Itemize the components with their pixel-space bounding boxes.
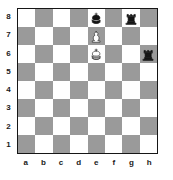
rank-label-6: 6 xyxy=(2,45,15,63)
board-square-a4[interactable] xyxy=(18,81,35,99)
board-square-f2[interactable] xyxy=(105,117,122,135)
board-square-f3[interactable] xyxy=(105,99,122,117)
board-square-g2[interactable] xyxy=(122,117,139,135)
board-square-a3[interactable] xyxy=(18,99,35,117)
file-label-e: e xyxy=(88,156,106,170)
board-square-h2[interactable] xyxy=(140,117,157,135)
board-square-b3[interactable] xyxy=(35,99,52,117)
board-square-f7[interactable] xyxy=(105,27,122,45)
board-square-g3[interactable] xyxy=(122,99,139,117)
board-square-a5[interactable] xyxy=(18,63,35,81)
black-rook-icon[interactable] xyxy=(140,45,157,63)
board-square-g1[interactable] xyxy=(122,135,139,153)
board-square-e6[interactable] xyxy=(88,45,105,63)
board-square-b6[interactable] xyxy=(35,45,52,63)
black-rook-icon[interactable] xyxy=(122,9,139,27)
rank-label-1: 1 xyxy=(2,136,15,154)
board-square-h5[interactable] xyxy=(140,63,157,81)
board-square-c8[interactable] xyxy=(53,9,70,27)
chess-board-grid xyxy=(18,9,157,153)
board-square-b2[interactable] xyxy=(35,117,52,135)
board-square-e4[interactable] xyxy=(88,81,105,99)
board-square-h3[interactable] xyxy=(140,99,157,117)
board-square-b5[interactable] xyxy=(35,63,52,81)
board-square-g6[interactable] xyxy=(122,45,139,63)
board-square-a2[interactable] xyxy=(18,117,35,135)
file-label-h: h xyxy=(140,156,158,170)
board-square-a8[interactable] xyxy=(18,9,35,27)
board-square-h7[interactable] xyxy=(140,27,157,45)
board-square-e3[interactable] xyxy=(88,99,105,117)
board-square-h8[interactable] xyxy=(140,9,157,27)
board-square-e7[interactable] xyxy=(88,27,105,45)
board-square-f4[interactable] xyxy=(105,81,122,99)
file-label-b: b xyxy=(35,156,53,170)
white-pawn-icon[interactable] xyxy=(88,27,105,45)
board-square-d8[interactable] xyxy=(70,9,87,27)
board-square-d1[interactable] xyxy=(70,135,87,153)
board-square-a7[interactable] xyxy=(18,27,35,45)
board-square-e5[interactable] xyxy=(88,63,105,81)
board-square-d3[interactable] xyxy=(70,99,87,117)
file-label-g: g xyxy=(123,156,141,170)
board-square-c1[interactable] xyxy=(53,135,70,153)
board-square-g7[interactable] xyxy=(122,27,139,45)
board-square-f1[interactable] xyxy=(105,135,122,153)
chess-diagram: 8 7 6 5 4 3 2 1 a b c d e f g h xyxy=(0,0,173,180)
board-square-h1[interactable] xyxy=(140,135,157,153)
board-square-d5[interactable] xyxy=(70,63,87,81)
board-square-d2[interactable] xyxy=(70,117,87,135)
chess-board xyxy=(17,8,158,154)
board-square-a1[interactable] xyxy=(18,135,35,153)
rank-label-5: 5 xyxy=(2,63,15,81)
black-king-icon[interactable] xyxy=(88,9,105,27)
board-square-d6[interactable] xyxy=(70,45,87,63)
board-square-f6[interactable] xyxy=(105,45,122,63)
board-square-c4[interactable] xyxy=(53,81,70,99)
file-label-f: f xyxy=(105,156,123,170)
board-square-c3[interactable] xyxy=(53,99,70,117)
board-square-h4[interactable] xyxy=(140,81,157,99)
board-square-d4[interactable] xyxy=(70,81,87,99)
rank-label-7: 7 xyxy=(2,26,15,44)
board-square-g8[interactable] xyxy=(122,9,139,27)
rank-label-4: 4 xyxy=(2,81,15,99)
white-king-icon[interactable] xyxy=(88,45,105,63)
board-square-h6[interactable] xyxy=(140,45,157,63)
board-square-b8[interactable] xyxy=(35,9,52,27)
board-square-c6[interactable] xyxy=(53,45,70,63)
board-square-c7[interactable] xyxy=(53,27,70,45)
board-square-c2[interactable] xyxy=(53,117,70,135)
rank-label-3: 3 xyxy=(2,99,15,117)
board-square-g4[interactable] xyxy=(122,81,139,99)
file-label-d: d xyxy=(70,156,88,170)
board-square-f5[interactable] xyxy=(105,63,122,81)
file-label-c: c xyxy=(52,156,70,170)
file-label-row: a b c d e f g h xyxy=(17,156,158,170)
board-square-c5[interactable] xyxy=(53,63,70,81)
board-square-e2[interactable] xyxy=(88,117,105,135)
board-square-e8[interactable] xyxy=(88,9,105,27)
board-square-b7[interactable] xyxy=(35,27,52,45)
board-square-a6[interactable] xyxy=(18,45,35,63)
file-label-a: a xyxy=(17,156,35,170)
rank-label-column: 8 7 6 5 4 3 2 1 xyxy=(2,8,15,154)
board-square-d7[interactable] xyxy=(70,27,87,45)
rank-label-8: 8 xyxy=(2,8,15,26)
board-square-b1[interactable] xyxy=(35,135,52,153)
rank-label-2: 2 xyxy=(2,118,15,136)
board-square-g5[interactable] xyxy=(122,63,139,81)
board-square-e1[interactable] xyxy=(88,135,105,153)
board-square-f8[interactable] xyxy=(105,9,122,27)
board-square-b4[interactable] xyxy=(35,81,52,99)
